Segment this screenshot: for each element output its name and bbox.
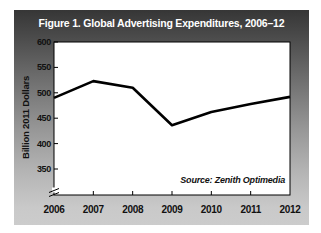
chart-panel: Figure 1. Global Advertising Expenditure…	[14, 10, 309, 225]
x-tick-label: 2007	[77, 205, 109, 215]
chart-title: Figure 1. Global Advertising Expenditure…	[14, 17, 309, 29]
plot-area	[54, 42, 290, 195]
y-tick-label: 600	[15, 37, 51, 47]
y-tick-label: 550	[15, 62, 51, 72]
x-tick-label: 2009	[156, 205, 188, 215]
x-tick-label: 2012	[274, 205, 306, 215]
source-note: Source: Zenith Optimedia	[180, 175, 285, 185]
y-tick-label: 450	[15, 113, 51, 123]
figure-1-chart: Figure 1. Global Advertising Expenditure…	[0, 0, 321, 233]
x-tick-label: 2010	[195, 205, 227, 215]
line-chart-plot	[14, 10, 309, 225]
x-tick-label: 2008	[117, 205, 149, 215]
x-tick-label: 2006	[38, 205, 70, 215]
y-tick-label: 350	[15, 164, 51, 174]
x-tick-label: 2011	[235, 205, 267, 215]
y-tick-label: 500	[15, 88, 51, 98]
y-tick-label: 400	[15, 139, 51, 149]
